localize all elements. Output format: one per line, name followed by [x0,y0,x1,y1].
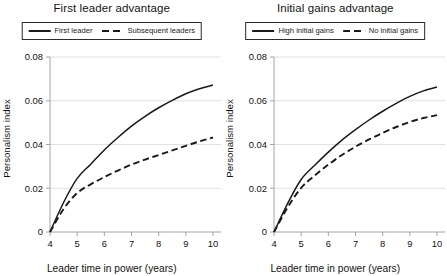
x-tick-label: 8 [380,238,385,249]
plot-area: 00.020.040.060.0845678910 [0,0,224,276]
plot-area: 00.020.040.060.0845678910 [224,0,447,276]
figure-two-panel-line-charts: First leader advantage First leader Subs… [0,0,447,276]
x-tick-label: 4 [271,238,276,249]
x-tick-label: 5 [75,238,80,249]
x-tick-label: 10 [208,238,218,249]
line-chart-svg: 00.020.040.060.0845678910 [224,0,447,276]
y-tick-label: 0 [38,226,43,237]
x-tick-label: 9 [407,238,412,249]
x-tick-label: 4 [47,238,52,249]
y-tick-label: 0.04 [248,139,266,150]
x-tick-label: 9 [183,238,188,249]
series-line-dashed [50,138,213,233]
y-tick-label: 0.06 [25,95,43,106]
x-tick-label: 6 [102,238,107,249]
series-line-dashed [274,115,437,232]
panel-initial-gains-advantage: Initial gains advantage High initial gai… [224,0,447,276]
y-tick-label: 0.06 [248,95,266,106]
y-tick-label: 0.04 [25,139,43,150]
x-tick-label: 8 [156,238,161,249]
line-chart-svg: 00.020.040.060.0845678910 [0,0,224,276]
series-line-solid [274,87,437,232]
x-tick-label: 7 [352,238,357,249]
x-tick-label: 5 [298,238,303,249]
y-tick-label: 0.08 [25,51,43,62]
y-tick-label: 0.08 [248,51,266,62]
x-axis-label: Leader time in power (years) [0,263,224,274]
panel-first-leader-advantage: First leader advantage First leader Subs… [0,0,224,276]
x-axis-label: Leader time in power (years) [224,263,447,274]
y-tick-label: 0.02 [25,183,43,194]
x-tick-label: 7 [129,238,134,249]
x-tick-label: 10 [431,238,441,249]
y-tick-label: 0 [261,226,266,237]
series-line-solid [50,85,213,232]
y-tick-label: 0.02 [248,183,266,194]
x-tick-label: 6 [325,238,330,249]
